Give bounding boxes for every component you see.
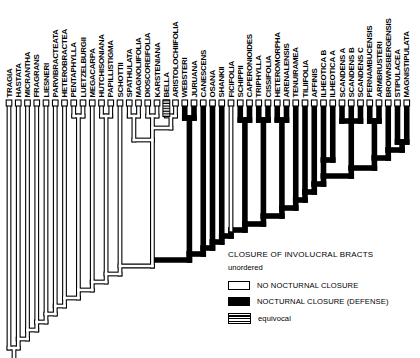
tip-box-arenalensis	[284, 100, 290, 106]
legend-subtitle: unordered	[228, 263, 389, 272]
taxon-label-caperonioides: CAPERONIOIDES	[245, 33, 254, 97]
tip-box-magnistipulata	[404, 100, 410, 106]
taxon-label-heterobractea: HETEROBRACTEA	[60, 28, 69, 97]
tip-box-heterobractea	[62, 100, 68, 106]
tip-box-aristolochiifolia	[173, 100, 179, 106]
tip-box-websteri	[182, 100, 188, 106]
tip-box-pentaphylla	[71, 100, 77, 106]
taxon-label-heteromorpha: HETEROMORPHA	[273, 32, 282, 98]
taxon-label-triphylla: TRIPHYLLA	[254, 55, 263, 98]
taxon-label-osana: OSANA	[208, 70, 217, 98]
legend-item-nocturnal-closure-defense: NOCTURNAL CLOSURE (DEFENSE)	[228, 297, 389, 306]
taxon-label-karsteniana: KARSTENIANA	[153, 42, 162, 97]
taxon-label-parvibracteata: PARVIBRACTEATA	[51, 29, 60, 98]
taxon-label-magnoliifolia: MAGNOLIIFOLIA	[134, 37, 143, 98]
taxon-label-ficifolia: FICIFOLIA	[227, 61, 236, 98]
taxon-label-armbrusteri: ARMBRUSTERI	[375, 42, 384, 98]
legend-rows: NO NOCTURNAL CLOSURE NOCTURNAL CLOSURE (…	[228, 281, 389, 324]
taxon-label-micrantha: MICRANTHA	[23, 51, 32, 97]
legend-item-no-nocturnal-closure: NO NOCTURNAL CLOSURE	[228, 281, 389, 290]
tip-box-scandens-b	[348, 100, 354, 106]
tip-box-dioscoreifolia	[145, 100, 151, 106]
tip-box-scandens-c	[358, 100, 364, 106]
taxon-label-spathulata: SPATHULATA	[125, 48, 134, 97]
taxon-label-tiliifolia: TILIIFOLIA	[301, 60, 310, 98]
tip-box-schippii	[237, 100, 243, 106]
tip-box-stipulacea	[395, 100, 401, 106]
black-branches	[155, 106, 407, 260]
tip-box-karsteniana	[154, 100, 160, 106]
taxon-label-brownsbergensis: BROWNSBERGENSIS	[384, 17, 393, 97]
legend-item-equivocal: equivocal	[228, 313, 389, 324]
taxon-label-luetzelburgii: LUETZELBURGII	[79, 37, 88, 97]
tip-boxes	[6, 100, 409, 106]
tip-box-schottii	[117, 100, 123, 106]
taxon-label-cissifolia: CISSIFOLIA	[264, 55, 273, 97]
taxon-label-ilheotica-a: ILHEOTICA A	[328, 50, 337, 98]
taxon-label-aristolochiifolia: ARISTOLOCHIIFOLIA	[171, 21, 180, 98]
tip-box-shankii	[219, 100, 225, 106]
tip-box-scandens-a	[339, 100, 345, 106]
taxon-label-hastata: HASTATA	[14, 63, 23, 98]
taxon-label-websteri: WEBSTERI	[180, 58, 189, 98]
legend-item-label: NOCTURNAL CLOSURE (DEFENSE)	[257, 297, 389, 306]
taxon-label-pentaphylla: PENTAPHYLLA	[69, 42, 78, 98]
taxon-label-bella: BELLA	[162, 72, 171, 98]
taxon-label-ilheotica-b: ILHEOTICA B	[319, 49, 328, 97]
tip-box-brownsbergensis	[385, 100, 391, 106]
tip-box-liesneri	[43, 100, 49, 106]
legend: CLOSURE OF INVOLUCRAL BRACTS unordered N…	[228, 250, 389, 331]
tip-box-juruana	[191, 100, 197, 106]
taxon-label-papillistigma: PAPILLISTIGMA	[106, 40, 115, 98]
equivocal-branch-bella	[163, 100, 170, 117]
taxon-label-canescens: CANESCENS	[199, 49, 208, 97]
taxon-label-magnistipulata: MAGNISTIPULATA	[402, 31, 411, 98]
open-branches-fill	[9, 106, 231, 357]
tip-box-triphylla	[256, 100, 262, 106]
tip-box-tiliifolia	[302, 100, 308, 106]
tip-box-caperonioides	[247, 100, 253, 106]
tip-box-canescens	[200, 100, 206, 106]
tip-box-armbrusteri	[376, 100, 382, 106]
tip-box-micrantha	[25, 100, 31, 106]
taxon-label-scandens-a: SCANDENS A	[338, 47, 347, 97]
tip-box-fragrans	[34, 100, 40, 106]
taxon-label-arenalensis: ARENALENSIS	[282, 42, 291, 97]
tip-box-parvibracteata	[52, 100, 58, 106]
taxon-label-megacarpa: MEGACARPA	[88, 48, 97, 98]
tip-box-megacarpa	[89, 100, 95, 106]
tip-box-hastata	[15, 100, 21, 106]
taxon-label-dioscoreifolia: DIOSCOREIFOLIA	[143, 32, 152, 97]
taxon-label-scandens-c: SCANDENS C	[356, 47, 365, 97]
hatched-state-swatch	[228, 313, 251, 324]
tip-box-magnoliifolia	[136, 100, 142, 106]
open-state-swatch	[228, 281, 250, 290]
tip-box-luetzelburgii	[80, 100, 86, 106]
legend-item-label: NO NOCTURNAL CLOSURE	[257, 281, 358, 290]
taxon-label-hutchisoniana: HUTCHISONIANA	[97, 34, 106, 98]
taxon-label-stipulacea: STIPULACEA	[393, 49, 402, 98]
tip-box-spathulata	[126, 100, 132, 106]
tip-box-ficifolia	[228, 100, 234, 106]
tip-box-pernambucensis	[367, 100, 373, 106]
taxon-label-liesneri: LIESNERI	[42, 63, 51, 98]
taxon-labels: TRAGIAHASTATAMICRANTHAFRAGRANSLIESNERIPA…	[5, 17, 412, 97]
tip-box-cissifolia	[265, 100, 271, 106]
tip-box-papillistigma	[108, 100, 114, 106]
taxon-label-affinis: AFFINIS	[310, 68, 319, 98]
tip-box-affinis	[311, 100, 317, 106]
taxon-label-tragia: TRAGIA	[5, 68, 14, 97]
taxon-label-juruana: JURUANA	[190, 60, 199, 98]
tip-box-ilheotica-b	[321, 100, 327, 106]
taxon-label-tenuiramea: TENUIRAMEA	[291, 47, 300, 98]
legend-item-label: equivocal	[258, 314, 291, 323]
tip-box-hutchisoniana	[99, 100, 105, 106]
tip-box-heteromorpha	[274, 100, 280, 106]
taxon-label-scandens-b: SCANDENS B	[347, 47, 356, 97]
cladogram-figure: TRAGIAHASTATAMICRANTHAFRAGRANSLIESNERIPA…	[0, 0, 420, 358]
legend-title: CLOSURE OF INVOLUCRAL BRACTS	[228, 250, 389, 259]
tip-box-tenuiramea	[293, 100, 299, 106]
filled-state-swatch	[228, 297, 250, 306]
taxon-label-shankii: SHANKII	[217, 67, 226, 98]
equivocal-branch-layer	[163, 100, 170, 117]
